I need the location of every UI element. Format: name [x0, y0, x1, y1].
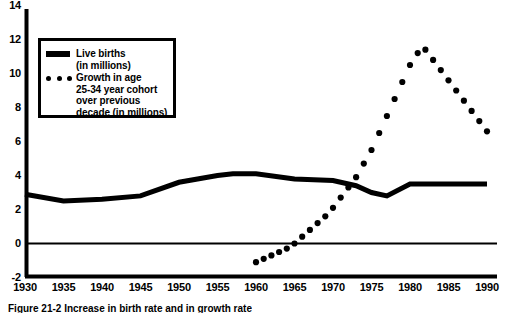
chart-figure: 14121086420-2 19301935194019451950195519… [0, 0, 510, 313]
x-tick-label: 1980 [393, 281, 427, 293]
x-tick-label: 1940 [85, 281, 119, 293]
figure-caption: Figure 21-2 Increase in birth rate and i… [8, 303, 252, 313]
data-point-dot [315, 220, 321, 226]
data-point-dot [476, 118, 482, 124]
y-tick-label: 8 [0, 101, 21, 113]
x-tick-label: 1985 [432, 281, 466, 293]
data-point-dot [291, 240, 297, 246]
x-tick-label: 1935 [47, 281, 81, 293]
data-point-dot [261, 256, 267, 262]
data-point-dot [438, 67, 444, 73]
series-line-live-births [25, 174, 487, 201]
data-point-dot [330, 205, 336, 211]
x-tick-label: 1950 [162, 281, 196, 293]
legend-label-live-births: Live births (in millions) [76, 48, 131, 71]
data-point-dot [338, 195, 344, 201]
x-tick-label: 1990 [470, 281, 504, 293]
data-point-dot [299, 234, 305, 240]
x-tick-label: 1955 [201, 281, 235, 293]
data-point-dot [469, 108, 475, 114]
y-tick-label: 10 [0, 67, 21, 79]
data-point-dot [361, 161, 367, 167]
data-point-dot [353, 174, 359, 180]
x-tick-label: 1930 [8, 281, 42, 293]
data-point-dot [461, 98, 467, 104]
data-point-dot [345, 184, 351, 190]
x-tick-label: 1945 [124, 281, 158, 293]
chart-legend: Live births (in millions) Growth in age … [38, 38, 176, 118]
y-tick-label: 2 [0, 203, 21, 215]
series-dots-cohort-growth [253, 47, 490, 266]
data-point-dot [445, 77, 451, 83]
data-point-dot [368, 147, 374, 153]
data-point-dot [392, 96, 398, 102]
x-tick-label: 1970 [316, 281, 350, 293]
data-point-dot [253, 259, 259, 265]
x-tick-label: 1975 [355, 281, 389, 293]
data-point-dot [276, 249, 282, 255]
data-point-dot [484, 128, 490, 134]
data-point-dot [307, 227, 313, 233]
data-point-dot [453, 87, 459, 93]
legend-dots-icon [46, 72, 76, 84]
data-point-dot [322, 213, 328, 219]
y-tick-label: 0 [0, 237, 21, 249]
data-point-dot [384, 113, 390, 119]
legend-label-cohort-growth: Growth in age 25-34 year cohort over pre… [76, 72, 167, 118]
data-point-dot [430, 57, 436, 63]
y-tick-label: 12 [0, 33, 21, 45]
data-point-dot [422, 47, 428, 53]
data-point-dot [376, 130, 382, 136]
x-tick-label: 1960 [239, 281, 273, 293]
y-tick-label: 6 [0, 135, 21, 147]
data-point-dot [407, 62, 413, 68]
data-point-dot [415, 50, 421, 56]
data-point-dot [399, 79, 405, 85]
data-point-dot [284, 246, 290, 252]
legend-solid-bar-icon [46, 48, 76, 60]
legend-item-cohort-growth: Growth in age 25-34 year cohort over pre… [46, 72, 167, 118]
data-point-dot [268, 252, 274, 258]
x-tick-label: 1965 [278, 281, 312, 293]
y-tick-label: 14 [0, 0, 21, 11]
y-tick-label: 4 [0, 169, 21, 181]
legend-item-live-births: Live births (in millions) [46, 48, 131, 71]
